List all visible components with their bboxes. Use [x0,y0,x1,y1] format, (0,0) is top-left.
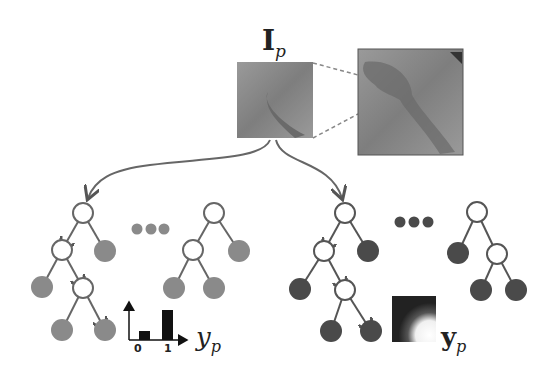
structured-tree-2 [447,202,527,301]
classification-tree-1 [31,203,116,341]
arrow-to-classification-forest [88,140,270,198]
input-patch-label: Ip [262,24,286,61]
ellipsis-left [132,224,170,235]
structured-tree-1 [289,203,382,342]
ellipsis-right [395,217,434,228]
classification-tree-2 [163,203,250,299]
hist-tick-0: 0 [134,342,142,355]
zoom-line-bottom [313,114,358,138]
hist-tick-1: 1 [164,342,172,355]
class-histogram [129,302,187,340]
structured-label-patch [392,296,436,342]
arrow-to-structured-forest [276,140,342,198]
zoomed-patch [358,49,463,155]
input-patch [237,62,313,138]
class-label: yp [196,322,221,356]
zoom-line-top [313,63,358,75]
structured-label: yp [441,322,466,356]
